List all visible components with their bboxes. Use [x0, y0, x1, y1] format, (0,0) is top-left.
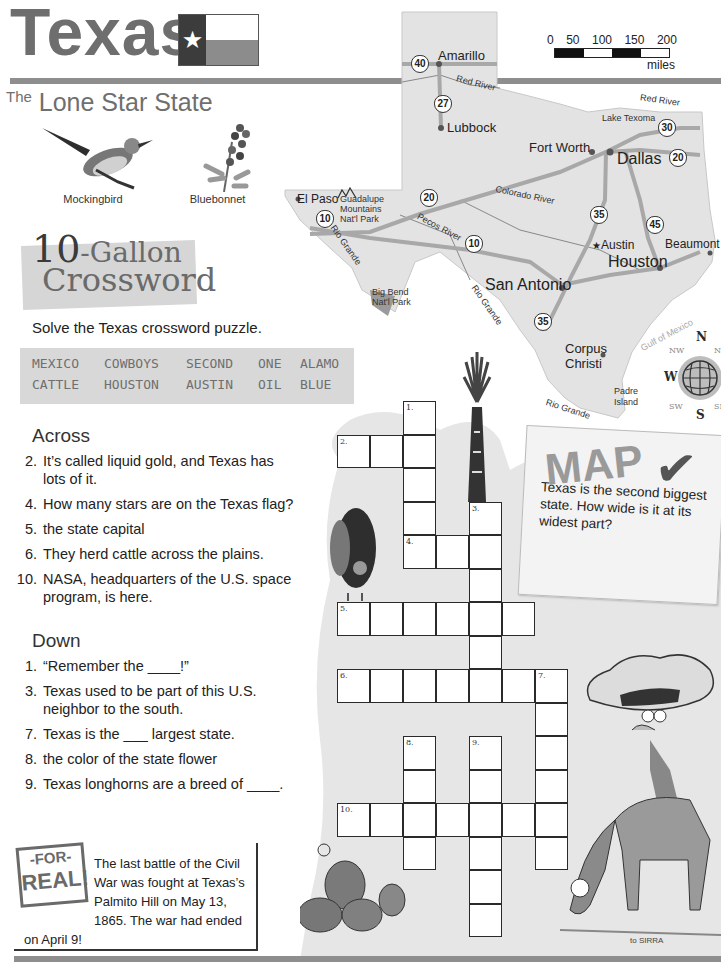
crossword-cell[interactable] [469, 669, 502, 703]
word-bank-item: OIL [258, 377, 300, 392]
across-heading: Across [32, 425, 90, 447]
down-clue-7: 7.Texas is the ___ largest state. [15, 725, 333, 743]
highway-shield-35-south: 35 [534, 313, 552, 331]
crossword-cell[interactable] [403, 602, 436, 636]
crossword-cell[interactable] [469, 535, 502, 569]
highway-shield-45: 45 [646, 216, 664, 234]
mockingbird-label: Mockingbird [48, 193, 138, 205]
city-lubbock: Lubbock [447, 120, 496, 135]
scale-tick: 50 [566, 33, 579, 47]
city-san-antonio: San Antonio [485, 276, 571, 294]
bluebonnet-illustration [202, 122, 257, 192]
flag-star-icon: ★ [179, 15, 206, 65]
crossword-cell[interactable] [469, 569, 502, 603]
crossword-cell[interactable]: 5. [337, 602, 370, 636]
compass-ne: NE [714, 346, 721, 355]
cowboy-horse-illustration [560, 640, 721, 950]
down-clue-1: 1.“Remember the ____!” [15, 657, 333, 675]
scale-tick: 0 [547, 33, 554, 47]
scale-bar [554, 48, 670, 58]
mockingbird-illustration [38, 122, 153, 192]
page-subtitle: The Lone Star State [6, 88, 213, 117]
down-clues: 1.“Remember the ____!” 3.Texas used to b… [15, 657, 333, 800]
word-bank-item: CATTLE [32, 377, 104, 392]
crossword-cell[interactable] [469, 837, 502, 871]
footer-divider [14, 956, 721, 962]
crossword-cell[interactable] [436, 669, 469, 703]
crossword-cell[interactable] [403, 502, 436, 536]
oil-derrick-illustration [462, 352, 492, 504]
crossword-cell[interactable] [502, 803, 535, 837]
compass-n: N [696, 330, 707, 344]
city-amarillo: Amarillo [438, 48, 485, 63]
down-heading: Down [32, 630, 81, 652]
word-bank-item: ONE [258, 356, 300, 371]
crossword-cell[interactable] [469, 904, 502, 938]
crossword-cell[interactable]: 4. [403, 535, 436, 569]
word-bank: MEXICO COWBOYS SECOND ONE ALAMO CATTLE H… [20, 348, 354, 404]
place-guadalupe-mountains: Guadalupe Mountains Nat'l Park [340, 194, 390, 224]
crossword-cell[interactable] [469, 803, 502, 837]
subtitle-prefix: The [6, 88, 32, 105]
scale-tick: 200 [657, 33, 677, 47]
crossword-cell[interactable] [370, 602, 403, 636]
crossword-cell[interactable] [370, 669, 403, 703]
crossword-title: 10-Gallon Crossword [32, 232, 216, 295]
word-bank-item: HOUSTON [104, 377, 186, 392]
bluebonnet-label: Bluebonnet [180, 193, 255, 205]
scale-tick: 150 [624, 33, 644, 47]
crossword-cell[interactable] [370, 435, 403, 469]
capital-star-icon: ★ [592, 240, 601, 251]
compass-w: W [664, 370, 677, 384]
crossword-cell[interactable] [469, 636, 502, 670]
highway-shield-40: 40 [411, 55, 429, 73]
across-clue-10: 10.NASA, headquarters of the U.S. space … [15, 570, 343, 606]
word-bank-item: BLUE [300, 377, 331, 392]
crossword-cell[interactable] [502, 602, 535, 636]
crossword-cell[interactable] [436, 803, 469, 837]
highway-shield-10-central: 10 [465, 235, 483, 253]
subtitle-text: Lone Star State [39, 88, 213, 116]
crossword-cell[interactable]: 2. [337, 435, 370, 469]
city-el-paso: El Paso [297, 192, 338, 206]
map-check-text: Texas is the second biggest state. How w… [539, 478, 721, 538]
crossword-cell[interactable]: 8. [403, 736, 436, 770]
down-clue-3: 3.Texas used to be part of this U.S. nei… [15, 682, 333, 718]
crossword-cell[interactable] [469, 870, 502, 904]
crossword-cell[interactable]: 3. [469, 502, 502, 536]
highway-shield-35-north: 35 [590, 206, 608, 224]
place-lake-texoma: Lake Texoma [602, 113, 655, 123]
page-title: Texas [10, 0, 197, 70]
highway-shield-20-west: 20 [420, 189, 438, 207]
city-corpus-christi: Corpus Christi [565, 341, 610, 371]
crossword-cell[interactable] [436, 602, 469, 636]
scale-unit: miles [549, 58, 675, 72]
highway-shield-30: 30 [658, 119, 676, 137]
texas-flag: ★ [178, 14, 259, 66]
down-clue-8: 8.the color of the state flower [15, 750, 333, 768]
crossword-cell[interactable] [469, 602, 502, 636]
across-clue-2: 2.It’s called liquid gold, and Texas has… [15, 452, 343, 488]
place-big-bend: Big Bend Nat'l Park [372, 287, 412, 307]
word-bank-item: MEXICO [32, 356, 104, 371]
crossword-cell[interactable] [403, 770, 436, 804]
crossword-cell[interactable]: 9. [469, 736, 502, 770]
crossword-cell[interactable] [403, 669, 436, 703]
artist-signature: to SIRRA [630, 936, 663, 945]
cactus-illustration [300, 830, 410, 940]
word-bank-item: SECOND [186, 356, 258, 371]
crossword-cell[interactable] [502, 669, 535, 703]
crossword-cell[interactable] [403, 468, 436, 502]
map-scale: 0 50 100 150 200 miles [549, 33, 679, 72]
crossword-cell[interactable]: 6. [337, 669, 370, 703]
highway-shield-10-west: 10 [316, 210, 334, 228]
word-bank-item: AUSTIN [186, 377, 258, 392]
word-bank-item: ALAMO [300, 356, 339, 371]
crossword-cell[interactable] [436, 535, 469, 569]
crossword-cell[interactable]: 1. [403, 401, 436, 435]
vulture-illustration [328, 503, 378, 603]
across-clues: 2.It’s called liquid gold, and Texas has… [15, 452, 343, 613]
crossword-cell[interactable] [469, 770, 502, 804]
crossword-cell[interactable] [403, 435, 436, 469]
word-bank-item: COWBOYS [104, 356, 186, 371]
